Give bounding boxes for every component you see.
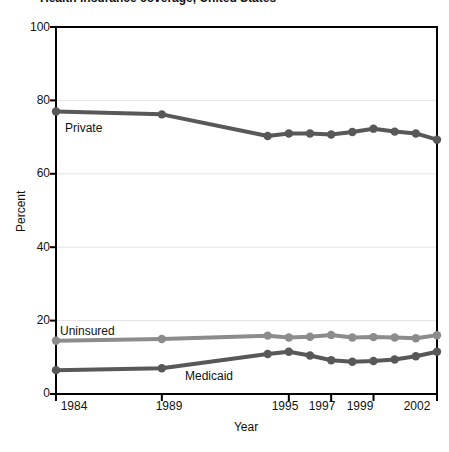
xtick-label-1999: 1999	[333, 399, 387, 413]
xtick-label-1989: 1989	[142, 399, 196, 413]
x-axis-title: Year	[186, 420, 306, 434]
xtick-label-1984: 1984	[47, 399, 101, 413]
axis-ticks	[50, 27, 437, 401]
ytick-label-20: 20	[14, 313, 50, 327]
series-label-uninsured: Uninsured	[60, 324, 115, 338]
xtick-label-2002: 2002	[390, 399, 444, 413]
ytick-label-0: 0	[14, 386, 50, 400]
plot-area	[0, 0, 449, 452]
series-label-medicaid: Medicaid	[185, 369, 233, 383]
ytick-label-40: 40	[14, 240, 50, 254]
ytick-label-60: 60	[14, 166, 50, 180]
series-label-private: Private	[65, 121, 102, 135]
ytick-label-80: 80	[14, 93, 50, 107]
chart-container: Health insurance coverage, United States…	[0, 0, 449, 452]
ytick-label-100: 100	[14, 20, 50, 34]
y-axis-title: Percent	[14, 191, 28, 232]
